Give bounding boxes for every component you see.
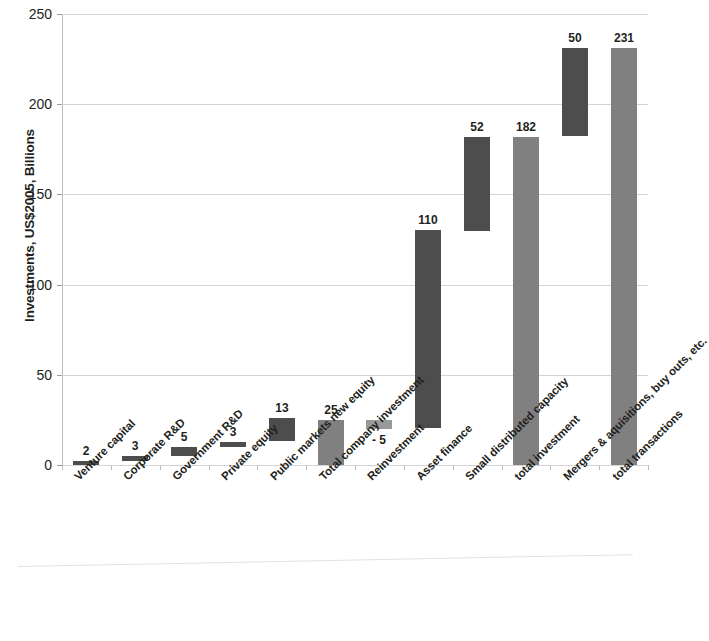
x-axis-tick-mark xyxy=(306,465,307,470)
x-axis-tick-mark xyxy=(355,465,356,470)
gridline xyxy=(62,194,648,195)
x-axis-tick-mark xyxy=(453,465,454,470)
bar-value-label: - 5 xyxy=(372,433,386,447)
bar-step xyxy=(220,442,246,447)
bar-value-label: 52 xyxy=(470,120,483,134)
y-axis-tick-label: 250 xyxy=(4,6,52,22)
label-guide-line xyxy=(18,554,633,567)
y-axis-line xyxy=(62,14,63,465)
y-axis-tick-label: 200 xyxy=(4,96,52,112)
bar-step xyxy=(464,137,490,231)
bar-value-label: 182 xyxy=(516,120,536,134)
y-axis-tick-label: 100 xyxy=(4,277,52,293)
gridline xyxy=(62,285,648,286)
x-axis-tick-mark xyxy=(257,465,258,470)
x-axis-tick-mark xyxy=(550,465,551,470)
x-axis-tick-mark xyxy=(502,465,503,470)
bar-step xyxy=(562,48,588,136)
x-axis-tick-mark xyxy=(599,465,600,470)
x-axis-tick-mark xyxy=(111,465,112,470)
bar-value-label: 5 xyxy=(181,430,188,444)
y-axis-tick-label: 50 xyxy=(4,367,52,383)
x-axis-tick-mark xyxy=(404,465,405,470)
bar-value-label: 50 xyxy=(568,31,581,45)
bar-value-label: 3 xyxy=(132,439,139,453)
bar-value-label: 13 xyxy=(275,401,288,415)
bar-step xyxy=(415,230,441,428)
x-axis-tick-mark xyxy=(648,465,649,470)
x-axis-tick-mark xyxy=(62,465,63,470)
bar-value-label: 231 xyxy=(614,31,634,45)
gridline xyxy=(62,104,648,105)
y-axis-title: Investments, US$2005, Billions xyxy=(22,101,37,351)
y-axis-tick-label: 150 xyxy=(4,186,52,202)
x-axis-tick-mark xyxy=(160,465,161,470)
bar-value-label: 110 xyxy=(418,213,437,227)
y-axis-tick-label: 0 xyxy=(4,457,52,473)
x-axis-tick-mark xyxy=(209,465,210,470)
gridline xyxy=(62,14,648,15)
